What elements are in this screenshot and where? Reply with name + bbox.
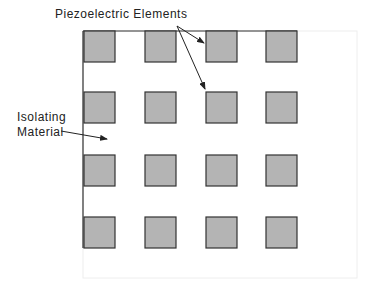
diagram-canvas	[0, 0, 375, 293]
isolating-label-1: Isolating	[17, 110, 66, 124]
piezo-elements-label: Piezoelectric Elements	[55, 7, 187, 21]
piezo-element-grid	[84, 31, 297, 248]
isolating-label-2: Material	[17, 125, 64, 139]
